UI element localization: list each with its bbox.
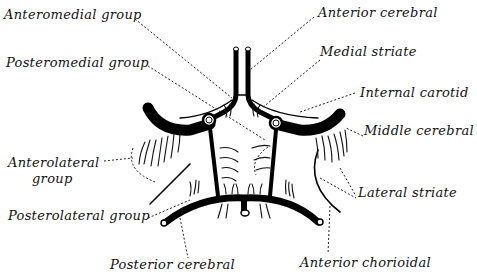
label-posterior-cerebral: Posterior cerebral — [110, 258, 235, 272]
label-anterior-cerebral: Anterior cerebral — [318, 6, 438, 20]
label-middle-cerebral: Middle cerebral — [364, 124, 474, 138]
internal-carotid-left — [203, 114, 215, 126]
anterior-cerebral-arteries — [205, 47, 280, 122]
label-anteromedial-group: Anteromedial group — [4, 8, 142, 22]
label-posteromedial-group: Posteromedial group — [6, 56, 149, 70]
label-posterolateral-group: Posterolateral group — [8, 209, 150, 223]
label-anterolateral-group: Anterolateral — [8, 156, 100, 170]
label-anterolateral-group-line2: group — [32, 172, 73, 186]
label-lateral-striate: Lateral striate — [358, 186, 457, 200]
internal-carotid-right — [270, 117, 282, 129]
label-anterior-chorioidal: Anterior chorioidal — [300, 256, 431, 270]
label-medial-striate: Medial striate — [320, 45, 417, 59]
label-internal-carotid: Internal carotid — [360, 86, 469, 100]
